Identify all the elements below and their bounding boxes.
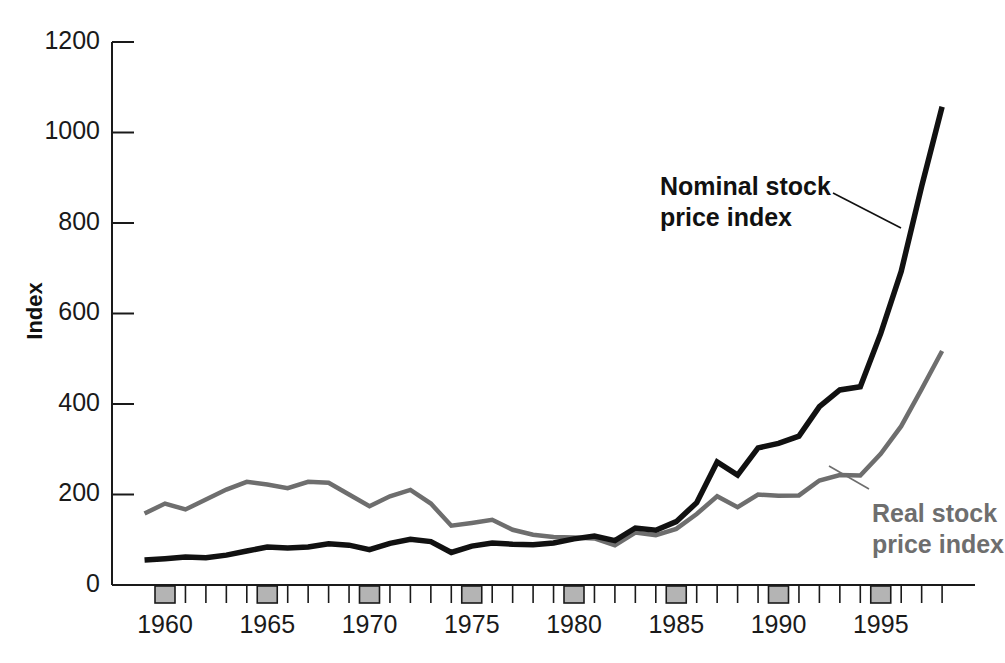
y-axis-title: Index bbox=[22, 282, 47, 340]
x-tick-label: 1965 bbox=[239, 610, 295, 638]
x-tick-block bbox=[155, 586, 175, 603]
x-tick-label: 1975 bbox=[444, 610, 500, 638]
x-tick-block bbox=[462, 586, 482, 603]
y-tick-label: 400 bbox=[58, 388, 100, 416]
y-tick-label: 600 bbox=[58, 297, 100, 325]
x-tick-label: 1990 bbox=[751, 610, 807, 638]
y-tick-label: 200 bbox=[58, 478, 100, 506]
x-tick-label: 1980 bbox=[546, 610, 602, 638]
nominal-annotation-line2: price index bbox=[660, 203, 792, 231]
x-tick-label: 1960 bbox=[137, 610, 193, 638]
x-tick-label: 1995 bbox=[853, 610, 909, 638]
y-tick-label: 1000 bbox=[44, 116, 100, 144]
x-tick-label: 1970 bbox=[342, 610, 398, 638]
chart-background bbox=[0, 0, 1005, 663]
x-tick-block bbox=[564, 586, 584, 603]
x-tick-label: 1985 bbox=[648, 610, 704, 638]
y-tick-label: 800 bbox=[58, 207, 100, 235]
y-tick-label: 1200 bbox=[44, 26, 100, 54]
x-tick-block bbox=[871, 586, 891, 603]
y-tick-label: 0 bbox=[86, 569, 100, 597]
x-tick-block bbox=[769, 586, 789, 603]
stock-price-index-chart: 020040060080010001200 196019651970197519… bbox=[0, 0, 1005, 663]
nominal-annotation-line1: Nominal stock bbox=[660, 172, 831, 200]
real-annotation-line2: price index bbox=[872, 530, 1004, 558]
x-tick-block bbox=[360, 586, 380, 603]
x-tick-block bbox=[257, 586, 277, 603]
x-tick-block bbox=[666, 586, 686, 603]
chart-canvas: 020040060080010001200 196019651970197519… bbox=[0, 0, 1005, 663]
real-annotation-line1: Real stock bbox=[872, 499, 997, 527]
